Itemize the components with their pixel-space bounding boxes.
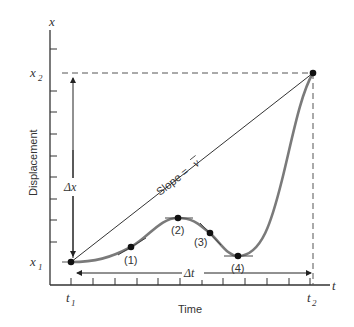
x-axis-symbol: t xyxy=(332,278,336,293)
y-axis-symbol: x xyxy=(48,14,55,29)
svg-text:t: t xyxy=(66,290,70,305)
svg-text:2: 2 xyxy=(38,73,43,83)
point-3 xyxy=(207,230,214,237)
point-label-2: (2) xyxy=(171,224,184,236)
point-2 xyxy=(175,215,182,222)
delta-x-arrow xyxy=(62,78,86,258)
displacement-time-diagram: (1) (2) (3) (4) x t x 2 x 1 t 1 t 2 Δx Δ… xyxy=(0,0,354,327)
point-label-1: (1) xyxy=(124,254,137,266)
svg-text:t: t xyxy=(307,290,311,305)
slope-label: Slope = v xyxy=(153,155,203,199)
delta-t-label: Δt xyxy=(183,266,195,280)
point-4 xyxy=(235,253,242,260)
dashed-guides xyxy=(62,73,313,285)
x1-label: x 1 xyxy=(29,254,43,272)
svg-text:2: 2 xyxy=(312,298,317,308)
point-label-3: (3) xyxy=(194,236,207,248)
point-label-4: (4) xyxy=(231,262,244,274)
svg-text:x: x xyxy=(29,254,36,269)
start-point xyxy=(68,259,75,266)
x-axis-title: Time xyxy=(178,303,202,315)
tangent-lines xyxy=(118,218,253,256)
t1-label: t 1 xyxy=(66,290,76,308)
secant-line xyxy=(71,73,313,262)
y-axis-ticks xyxy=(50,49,57,242)
svg-text:Slope =: Slope = xyxy=(154,165,191,198)
svg-text:1: 1 xyxy=(71,298,76,308)
delta-x-label: Δx xyxy=(63,180,77,194)
svg-text:x: x xyxy=(29,65,36,80)
x2-label: x 2 xyxy=(29,65,43,83)
y-axis-title: Displacement xyxy=(27,129,39,196)
t2-label: t 2 xyxy=(307,290,317,308)
point-1 xyxy=(128,244,135,251)
end-point xyxy=(310,70,317,77)
svg-text:1: 1 xyxy=(38,262,43,272)
